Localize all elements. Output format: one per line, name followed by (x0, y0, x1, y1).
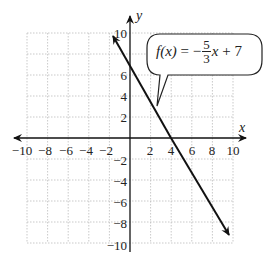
equation-label: f(x) = − 5 3 x + 7 (156, 38, 242, 65)
fraction: 5 3 (202, 38, 211, 65)
svg-text:−8: −8 (38, 143, 52, 158)
svg-text:−10: −10 (12, 143, 32, 158)
svg-text:−4: −4 (79, 143, 93, 158)
y-axis-label: y (134, 8, 143, 23)
svg-text:−10: −10 (107, 238, 127, 253)
svg-text:6: 6 (121, 68, 128, 83)
svg-text:4: 4 (121, 89, 128, 104)
svg-text:10: 10 (227, 143, 240, 158)
svg-text:−2: −2 (99, 143, 113, 158)
svg-text:2: 2 (147, 143, 154, 158)
svg-text:−8: −8 (113, 216, 127, 231)
svg-text:−6: −6 (113, 195, 127, 210)
x-axis-label: x (238, 120, 246, 135)
svg-text:10: 10 (114, 26, 127, 41)
svg-text:8: 8 (209, 143, 216, 158)
svg-text:−2: −2 (113, 153, 127, 168)
svg-text:−6: −6 (59, 143, 73, 158)
function-line (171, 138, 229, 235)
svg-text:4: 4 (168, 143, 175, 158)
svg-text:−4: −4 (113, 174, 127, 189)
svg-text:2: 2 (121, 110, 128, 125)
svg-text:6: 6 (189, 143, 196, 158)
